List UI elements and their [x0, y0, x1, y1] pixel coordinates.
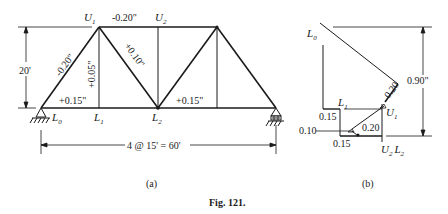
span-dimension-label: 4 @ 15' = 60'	[127, 140, 181, 151]
change-u1-l1: +0.05"	[86, 61, 97, 88]
truss-diagram	[18, 26, 284, 155]
williot-value-020-upper: 0.20	[382, 80, 401, 101]
williot-label-l0: L0	[306, 27, 317, 42]
change-u1-u2: -0.20"	[112, 12, 137, 23]
williot-value-020-lower: 0.20	[362, 122, 380, 133]
figure-caption: Fig. 121.	[209, 197, 246, 208]
williot-joint	[357, 134, 360, 137]
height-dimension-label: 20'	[19, 65, 31, 76]
node-label-u1: U1	[84, 11, 95, 26]
williot-value-015-bottom: 0.15	[333, 138, 351, 149]
williot-label-u1: U1	[386, 106, 397, 121]
joint-l2	[156, 106, 160, 110]
member-u1-l2	[99, 27, 158, 108]
pin-support-icon	[30, 108, 50, 123]
panel-a-label: (a)	[146, 178, 157, 190]
joint-u3	[216, 26, 219, 29]
member-u3-l4	[217, 27, 276, 108]
williot-value-015-top: 0.15	[319, 111, 337, 122]
williot-value-010: 0.10	[299, 125, 317, 136]
williot-line-l0-diag	[320, 23, 398, 84]
panel-b-label: (b)	[362, 178, 374, 190]
change-l2-l3: +0.15"	[176, 95, 203, 106]
node-label-u2: U2	[155, 11, 167, 26]
change-l0-l1: +0.15"	[59, 95, 86, 106]
figure-canvas: U1 U2 L0 L1 L2 -0.20" +0.15" +0.15" 20' …	[0, 0, 448, 214]
node-label-l1: L1	[93, 111, 104, 126]
node-label-l2: L2	[151, 111, 162, 126]
node-label-l0: L0	[51, 111, 62, 126]
williot-label-u2l2: U2L2	[381, 143, 405, 158]
williot-value-090: 0.90"	[407, 75, 429, 86]
roller-support-icon	[266, 108, 284, 126]
